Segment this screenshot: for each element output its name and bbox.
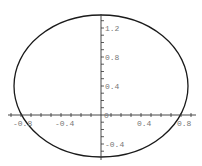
x-tick-label: 0.4: [137, 119, 152, 128]
x-tick-label: -0.4: [55, 119, 74, 128]
y-tick-label: 0.8: [105, 53, 120, 62]
plot-canvas: -0.8 -0.4 0.4 0.8 0 1.2 0.8 0.4 -0.4: [0, 0, 202, 166]
x-tick-label: 0.8: [177, 119, 192, 128]
y-tick-label: 0.4: [105, 82, 120, 91]
x-tick-label: -0.8: [13, 119, 32, 128]
y-tick-label: 1.2: [105, 24, 120, 33]
y-tick-label: -0.4: [105, 140, 124, 149]
origin-label: 0: [104, 111, 109, 120]
